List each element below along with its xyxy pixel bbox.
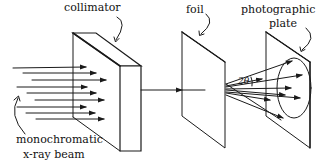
beam-label-line1: monochromatic — [16, 134, 103, 146]
x-ray-beam — [13, 67, 106, 119]
diffracted-rays — [226, 61, 302, 120]
collimator-label: collimator — [64, 2, 121, 14]
foil-label: foil — [186, 4, 204, 16]
plate-leader — [302, 28, 311, 50]
plate-label-line1: photographic — [241, 4, 315, 16]
angle-2theta-label: 2θ — [238, 76, 249, 86]
beam-label-line2: x-ray beam — [23, 149, 85, 161]
beam-leader — [14, 98, 25, 134]
plate-label-line2: plate — [269, 18, 297, 30]
foil-leader — [201, 14, 210, 34]
collimator-leader — [116, 17, 122, 40]
diagram: collimator foil photographic plate monoc… — [0, 0, 321, 167]
